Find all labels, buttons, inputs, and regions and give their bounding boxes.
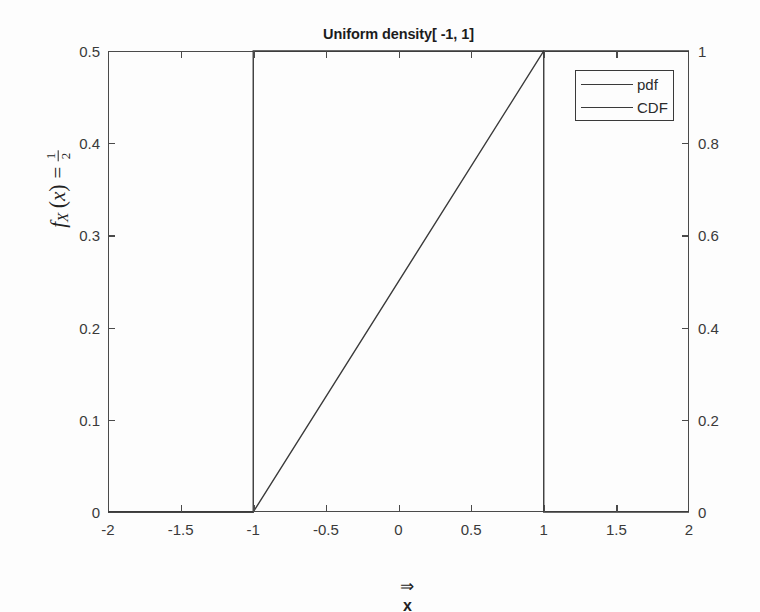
y-axis-left-tick-labels: 00.10.20.30.40.5	[52, 0, 100, 612]
x-axis-tick-label: 2	[685, 521, 693, 538]
legend-item-cdf[interactable]: CDF	[576, 95, 673, 120]
y-axis-title-var: x	[46, 192, 70, 201]
y-axis-title-equals: =	[46, 166, 70, 180]
y-axis-left-tick	[108, 328, 115, 329]
y-axis-right-tick	[682, 420, 689, 421]
x-axis-tick	[399, 505, 400, 512]
y-axis-right-tick	[682, 328, 689, 329]
x-axis-tick-label: 1.5	[606, 521, 627, 538]
y-axis-left-tick-label: 0.3	[79, 227, 100, 244]
x-axis-tick	[471, 505, 472, 512]
figure-canvas: Uniform density[ -1, 1] -2-1.5-1-0.500.5…	[0, 0, 760, 612]
y-axis-title-f: f	[46, 222, 70, 228]
y-axis-left-tick-label: 0.4	[79, 135, 100, 152]
y-axis-left-tick-label: 0.2	[79, 319, 100, 336]
fraction-numerator: 1	[44, 151, 58, 162]
x-axis-tick-label: 1	[540, 521, 548, 538]
y-axis-right-tick-label: 1	[698, 43, 706, 60]
y-axis-left-tick	[108, 143, 115, 144]
x-axis-tick-label: -2	[101, 521, 114, 538]
x-axis-tick	[544, 505, 545, 512]
y-axis-right-tick-label: 0.2	[698, 411, 719, 428]
x-axis-tick	[253, 505, 254, 512]
chart-title: Uniform density[ -1, 1]	[108, 26, 689, 42]
y-axis-right-tick-label: 0.4	[698, 319, 719, 336]
y-axis-title-paren-close: )	[45, 184, 70, 191]
x-axis-tick	[326, 505, 327, 512]
y-axis-left-tick	[108, 235, 115, 236]
x-axis-tick	[471, 51, 472, 58]
x-axis-tick	[181, 505, 182, 512]
x-axis-title-var: x	[403, 597, 412, 612]
y-axis-right-tick-label: 0.6	[698, 227, 719, 244]
y-axis-right-tick-label: 0.8	[698, 135, 719, 152]
legend-line-sample-pdf	[581, 84, 633, 85]
y-axis-left-tick-label: 0.5	[79, 43, 100, 60]
legend-box: pdf CDF	[575, 70, 674, 121]
x-axis-tick-label: 0	[394, 521, 402, 538]
y-axis-title-subscript: X	[55, 213, 71, 222]
legend-item-pdf[interactable]: pdf	[576, 72, 673, 97]
x-axis-tick	[544, 51, 545, 58]
y-axis-left-tick-label: 0	[92, 504, 100, 521]
x-axis-tick	[326, 51, 327, 58]
y-axis-right-tick	[682, 143, 689, 144]
x-axis-tick-label: -1.5	[168, 521, 194, 538]
y-axis-left-tick-label: 0.1	[79, 411, 100, 428]
y-axis-right-tick	[682, 235, 689, 236]
x-axis-tick	[616, 51, 617, 58]
x-axis-arrow-icon: ⇒	[400, 577, 414, 596]
y-axis-right-tick-label: 0	[698, 504, 706, 521]
y-axis-title: fX (x) = 12	[45, 114, 74, 264]
x-axis-tick	[616, 505, 617, 512]
y-axis-title-paren-open: (	[45, 201, 70, 208]
legend-line-sample-cdf	[581, 107, 633, 108]
x-axis-tick-label: -1	[247, 521, 260, 538]
x-axis-title: ⇒ x	[108, 558, 689, 612]
fraction-denominator: 2	[58, 151, 73, 162]
x-axis-tick	[399, 51, 400, 58]
y-axis-title-fraction: 12	[44, 151, 72, 162]
legend-label-pdf: pdf	[637, 76, 658, 93]
y-axis-left-tick	[108, 420, 115, 421]
x-axis-tick-label: -0.5	[313, 521, 339, 538]
y-axis-right-tick-labels: 00.20.40.60.81	[698, 0, 748, 612]
x-axis-tick	[253, 51, 254, 58]
x-axis-tick	[181, 51, 182, 58]
x-axis-tick-label: 0.5	[461, 521, 482, 538]
legend-label-cdf: CDF	[637, 99, 668, 116]
